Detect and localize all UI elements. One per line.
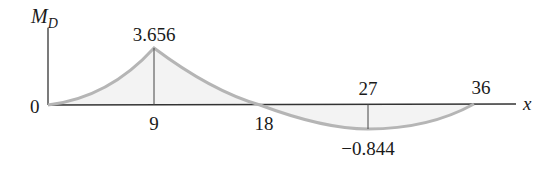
min-value-label: −0.844 [341, 138, 395, 159]
peak-value-label: 3.656 [133, 24, 176, 45]
tick-label-36: 36 [472, 77, 491, 98]
tick-label-27: 27 [359, 78, 378, 99]
y-axis-label: MD [30, 5, 58, 31]
influence-line-diagram: MD 0 3.656 9 18 27 36 −0.844 x [0, 0, 557, 175]
origin-label: 0 [30, 96, 40, 117]
tick-label-18: 18 [255, 113, 274, 134]
x-axis-label: x [522, 93, 532, 114]
tick-label-9: 9 [149, 113, 159, 134]
